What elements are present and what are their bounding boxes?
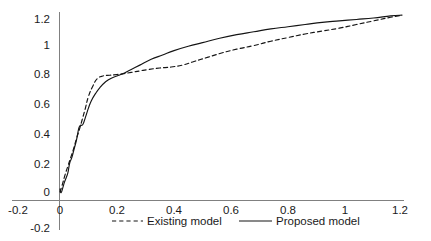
x-tick-label: 1.2 <box>392 204 408 216</box>
series-line-proposed-model <box>60 15 402 193</box>
legend-label-proposed-model: Proposed model <box>276 215 360 227</box>
y-tick-label: 0.4 <box>34 128 51 140</box>
y-tick-label: -0.2 <box>30 222 50 234</box>
series-line-existing-model <box>60 15 402 192</box>
y-tick-label: 0 <box>44 186 50 198</box>
line-chart: 1.2 1 0.8 0.6 0.4 0.2 0 -0.2 -0.2 0 0.2 … <box>0 0 431 241</box>
y-tick-label: 0.6 <box>34 98 50 110</box>
y-tick-label: 0.8 <box>34 68 50 80</box>
x-tick-label: 0.6 <box>223 204 239 216</box>
y-tick-label: 0.2 <box>34 158 50 170</box>
x-tick-label: 0.2 <box>109 204 125 216</box>
y-tick-label: 1.2 <box>34 13 50 25</box>
x-tick-label: 0 <box>57 204 63 216</box>
chart-figure: 1.2 1 0.8 0.6 0.4 0.2 0 -0.2 -0.2 0 0.2 … <box>0 0 431 241</box>
x-tick-label: -0.2 <box>8 204 28 216</box>
legend-label-existing-model: Existing model <box>147 215 222 227</box>
chart-legend: Existing model Proposed model <box>112 215 360 227</box>
y-tick-label: 1 <box>44 39 50 51</box>
